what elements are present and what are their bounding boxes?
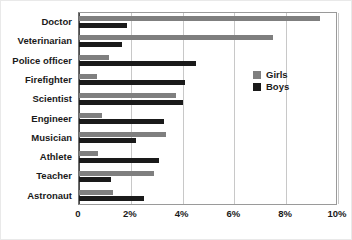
y-axis-label-scientist: Scientist <box>0 89 72 108</box>
bar-boys-teacher <box>79 177 111 182</box>
bar-girls-doctor <box>79 16 320 21</box>
x-tick-2: 4% <box>175 208 189 219</box>
bar-row <box>79 129 336 148</box>
bar-boys-veterinarian <box>79 42 122 47</box>
y-axis-label-firefighter: Firefighter <box>0 70 72 89</box>
x-tick-3: 6% <box>227 208 241 219</box>
legend-label-boys: Boys <box>266 82 289 91</box>
bar-girls-veterinarian <box>79 35 273 40</box>
x-tick-0: 0 <box>75 208 80 219</box>
legend-item-girls[interactable]: Girls <box>253 70 289 79</box>
bar-girls-police-officer <box>79 55 109 60</box>
bar-boys-doctor <box>79 23 127 28</box>
bar-girls-firefighter <box>79 74 97 79</box>
bar-boys-police-officer <box>79 61 196 66</box>
bar-row <box>79 110 336 129</box>
bar-row <box>79 167 336 186</box>
y-axis-label-engineer: Engineer <box>0 109 72 128</box>
bar-boys-athlete <box>79 158 159 163</box>
bar-row <box>79 148 336 167</box>
bar-row <box>79 71 336 90</box>
legend-swatch-boys-icon <box>253 83 261 91</box>
bar-row <box>79 32 336 51</box>
bar-row <box>79 52 336 71</box>
legend-swatch-girls-icon <box>253 71 261 79</box>
legend-item-boys[interactable]: Boys <box>253 82 289 91</box>
bar-boys-astronaut <box>79 196 144 201</box>
x-tick-1: 2% <box>123 208 137 219</box>
bar-girls-engineer <box>79 113 102 118</box>
x-axis-tick-labels: 02%4%6%8%10% <box>78 208 337 224</box>
bar-boys-engineer <box>79 119 164 124</box>
y-axis-label-teacher: Teacher <box>0 166 72 185</box>
y-axis-label-athlete: Athlete <box>0 147 72 166</box>
y-axis-label-veterinarian: Veterinarian <box>0 31 72 50</box>
plot-area <box>78 12 337 205</box>
x-tick-4: 8% <box>278 208 292 219</box>
bar-row <box>79 13 336 32</box>
bar-girls-teacher <box>79 171 154 176</box>
y-axis-label-doctor: Doctor <box>0 12 72 31</box>
bar-boys-musician <box>79 138 136 143</box>
bar-boys-scientist <box>79 100 183 105</box>
y-axis-label-astronaut: Astronaut <box>0 186 72 205</box>
x-tick-5: 10% <box>327 208 346 219</box>
y-axis-label-musician: Musician <box>0 128 72 147</box>
bar-boys-firefighter <box>79 80 185 85</box>
legend-label-girls: Girls <box>266 70 288 79</box>
bar-row <box>79 187 336 206</box>
chart-legend: GirlsBoys <box>253 70 289 91</box>
bar-chart: DoctorVeterinarianPolice officerFirefigh… <box>0 0 352 240</box>
bar-girls-athlete <box>79 151 98 156</box>
y-axis-label-police-officer: Police officer <box>0 51 72 70</box>
bar-girls-scientist <box>79 93 176 98</box>
bar-row <box>79 90 336 109</box>
bar-girls-musician <box>79 132 166 137</box>
gridline <box>338 13 339 204</box>
bar-girls-astronaut <box>79 190 113 195</box>
